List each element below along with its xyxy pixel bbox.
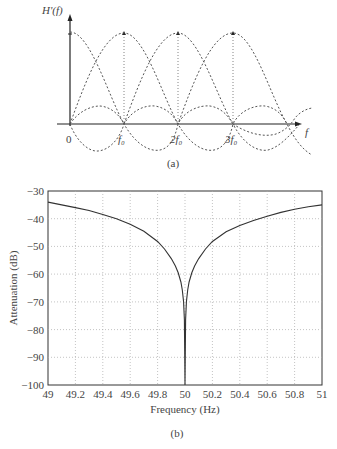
- tick-f0: f₀: [118, 133, 125, 145]
- x-tick: 51: [317, 388, 328, 400]
- x-tick: 49.2: [66, 388, 85, 400]
- x-tick: 50.4: [230, 388, 250, 400]
- x-axis-label: Frequency (Hz): [150, 403, 220, 416]
- x-axis-label: f: [305, 126, 310, 138]
- x-tick-labels: 49 49.2 49.4 49.6 49.8 50 50.2 50.4 50.6…: [43, 388, 328, 400]
- figure-a: H'(f) f 0 f₀ 2f₀ 3f₀ (a): [41, 4, 312, 170]
- x-tick: 50: [180, 388, 192, 400]
- y-tick: −50: [27, 240, 45, 252]
- y-tick: −40: [27, 213, 45, 225]
- x-tick: 49.4: [93, 388, 113, 400]
- peak-guides: [124, 34, 233, 124]
- x-tick: 49.8: [148, 388, 168, 400]
- y-tick: −80: [27, 324, 45, 336]
- tick-2f0: 2f₀: [170, 133, 183, 145]
- x-tick: 50.8: [285, 388, 305, 400]
- y-tick-labels: −30 −40 −50 −60 −70 −80 −90 −100: [21, 185, 44, 391]
- caption-b: (b): [171, 427, 184, 440]
- y-axis-label: H'(f): [41, 4, 63, 17]
- x-axis-arrow-icon: [295, 122, 302, 127]
- figure: H'(f) f 0 f₀ 2f₀ 3f₀ (a): [0, 0, 337, 449]
- x-tick: 50.2: [203, 388, 222, 400]
- y-tick: −70: [27, 296, 45, 308]
- y-axis-arrow-icon: [68, 14, 73, 21]
- response-curves: [70, 32, 312, 155]
- y-tick: −100: [21, 379, 44, 391]
- tick-3f0: 3f₀: [224, 133, 238, 145]
- y-tick: −90: [27, 351, 45, 363]
- x-tick: 49: [43, 388, 55, 400]
- y-axis-label: Attenuation (dB): [7, 250, 20, 325]
- x-tick: 49.6: [121, 388, 141, 400]
- tick-0: 0: [66, 133, 72, 145]
- y-tick: −60: [27, 268, 45, 280]
- figure-b: −30 −40 −50 −60 −70 −80 −90 −100 49 49.2…: [7, 185, 328, 440]
- caption-a: (a): [167, 157, 180, 170]
- x-tick: 50.6: [258, 388, 278, 400]
- y-tick: −30: [27, 185, 45, 197]
